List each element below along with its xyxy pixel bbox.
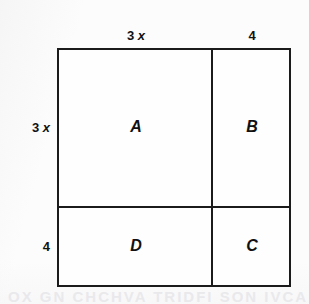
- dimension-label-top-right: 4: [221, 29, 283, 42]
- dimension-label-left-upper: 3 x: [6, 121, 50, 134]
- dimension-variable: x: [138, 28, 145, 43]
- dimension-coefficient: 3: [32, 120, 39, 135]
- region-label-b: B: [221, 119, 283, 135]
- region-label-d: D: [104, 238, 168, 254]
- area-model-diagram: ON THE RIO A B D C 3 x 4 3 x 4 OX GN CHC…: [0, 0, 309, 304]
- vertical-divider-line: [211, 48, 213, 287]
- dimension-label-left-lower: 4: [6, 240, 50, 253]
- region-label-c: C: [221, 238, 283, 254]
- region-label-a: A: [104, 119, 168, 135]
- dimension-label-top-left: 3 x: [104, 29, 168, 42]
- dimension-variable: x: [43, 120, 50, 135]
- scan-bleedthrough-artifact-bottom: OX GN CHCHVA TRIDFI SON IVCA: [8, 288, 308, 304]
- horizontal-divider-line: [57, 206, 291, 208]
- dimension-coefficient: 3: [127, 28, 134, 43]
